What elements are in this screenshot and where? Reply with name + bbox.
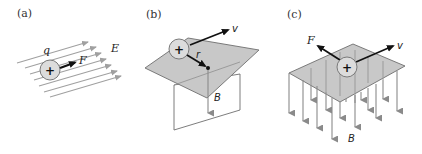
panel-c: (c) B xyxy=(287,8,405,144)
horizontal-plane xyxy=(145,38,259,98)
physics-diagram: (a) + q F E (b) v B xyxy=(0,0,422,154)
force-label-c: F xyxy=(306,34,315,47)
field-label-e: E xyxy=(110,42,119,55)
figure: (a) + q F E (b) v B xyxy=(0,0,422,154)
panel-c-label: (c) xyxy=(287,8,302,21)
plus-icon: + xyxy=(45,64,55,78)
charge-b: + xyxy=(169,39,189,59)
panel-a-label: (a) xyxy=(17,7,32,20)
plus-icon: + xyxy=(342,61,352,75)
electric-field-lines xyxy=(17,42,121,97)
charge-label-q: q xyxy=(43,44,50,57)
panel-a: (a) + q F E xyxy=(17,7,121,97)
velocity-label-b: v xyxy=(232,23,239,34)
field-label-b-c: B xyxy=(348,133,355,144)
panel-b: (b) v B + r xyxy=(145,8,259,130)
charge-a: + xyxy=(40,60,60,80)
velocity-label-c: v xyxy=(397,40,404,51)
field-label-b: B xyxy=(214,92,221,103)
charge-c: + xyxy=(337,57,357,77)
force-label-a: F xyxy=(78,54,87,67)
field-point-dot xyxy=(206,66,210,70)
panel-b-label: (b) xyxy=(146,8,162,21)
plus-icon: + xyxy=(174,43,184,57)
